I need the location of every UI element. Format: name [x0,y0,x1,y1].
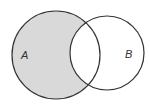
set-b-label: B [125,48,132,60]
venn-diagram: A B [0,0,150,106]
set-a-label: A [20,49,28,61]
